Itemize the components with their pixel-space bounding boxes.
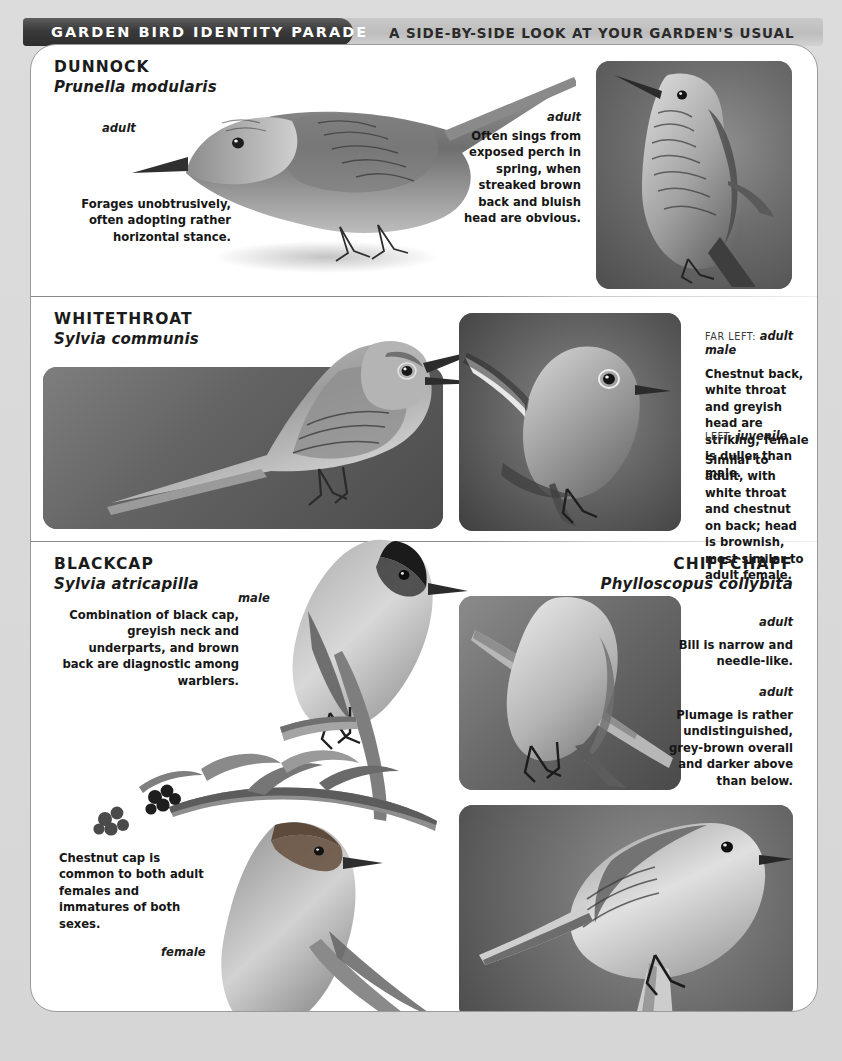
blackcap-name: BLACKCAP bbox=[54, 555, 199, 573]
chiffchaff-top-caption: Bill is narrow and needle-like. bbox=[661, 637, 793, 670]
whitethroat-juvenile-photo bbox=[459, 313, 681, 531]
blackcap-latin: Sylvia atricapilla bbox=[54, 575, 199, 593]
chiffchaff-bottom-caption: Plumage is rather undistinguished, grey-… bbox=[651, 707, 793, 789]
page-header: GARDEN BIRD IDENTITY PARADE A SIDE-BY-SI… bbox=[23, 18, 823, 46]
blackcap-bottom-caption: Chestnut cap is common to both adult fem… bbox=[59, 850, 207, 932]
page-title: GARDEN BIRD IDENTITY PARADE bbox=[51, 24, 368, 40]
content-card: DUNNOCK Prunella modularis adult Forages… bbox=[30, 44, 818, 1012]
chiffchaff-name: CHIFFCHAFF bbox=[587, 555, 793, 573]
dunnock-photo-label: adult bbox=[471, 110, 581, 124]
whitethroat-note-1-position: FAR LEFT: adult male bbox=[705, 329, 809, 357]
chiffchaff-photo-bottom bbox=[459, 805, 793, 1012]
blackcap-heading: BLACKCAP Sylvia atricapilla bbox=[54, 555, 199, 593]
chiffchaff-bottom-label: adult bbox=[681, 685, 793, 699]
chiffchaff-photo-top bbox=[459, 596, 681, 790]
dunnock-right-caption: Often sings from exposed perch in spring… bbox=[451, 128, 581, 227]
blackcap-top-caption: Combination of black cap, greyish neck a… bbox=[59, 607, 239, 689]
blackcap-female-label: female bbox=[161, 945, 206, 959]
chiffchaff-latin: Phylloscopus collybita bbox=[587, 575, 793, 593]
dunnock-photo bbox=[596, 61, 792, 289]
blackcap-female-illustration bbox=[171, 789, 461, 1012]
whitethroat-note-2-subject: juvenile bbox=[736, 429, 787, 443]
chiffchaff-heading: CHIFFCHAFF Phylloscopus collybita bbox=[587, 555, 793, 593]
whitethroat-note-2-position: LEFT: juvenile bbox=[705, 429, 809, 443]
chiffchaff-top-label: adult bbox=[681, 615, 793, 629]
